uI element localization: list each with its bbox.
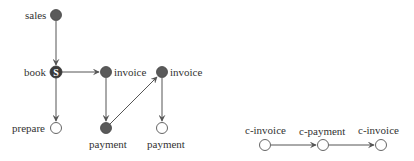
node-invoice-1 xyxy=(101,67,112,78)
label-prepare: prepare xyxy=(12,123,45,134)
label-payment-2: payment xyxy=(147,139,185,150)
node-payment-2 xyxy=(157,123,168,134)
label-c-invoice-1: c-invoice xyxy=(245,125,286,136)
node-payment-1 xyxy=(101,123,112,134)
label-invoice-2: invoice xyxy=(170,67,202,78)
node-c-invoice-2 xyxy=(376,140,387,151)
node-invoice-2 xyxy=(157,67,168,78)
diagram-canvas: S xyxy=(0,0,414,161)
label-c-payment: c-payment xyxy=(299,126,345,137)
node-prepare xyxy=(51,123,62,134)
label-invoice-1: invoice xyxy=(114,67,146,78)
node-sales xyxy=(51,10,62,21)
label-book: book xyxy=(24,67,46,78)
node-c-invoice-1 xyxy=(260,140,271,151)
label-sales: sales xyxy=(25,10,46,21)
book-marker-icon: S xyxy=(53,67,59,78)
label-payment-1: payment xyxy=(89,139,127,150)
label-c-invoice-2: c-invoice xyxy=(358,125,399,136)
node-c-payment xyxy=(318,140,329,151)
edge-payment-invoice xyxy=(110,77,157,124)
